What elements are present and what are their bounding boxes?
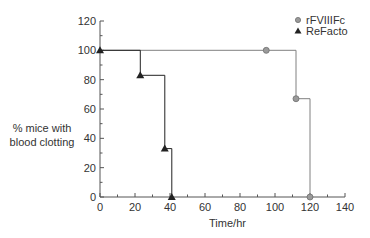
step-line (100, 50, 172, 197)
circle-marker-icon (293, 96, 299, 102)
y-tick-label: 120 (78, 15, 96, 27)
x-tick-label: 140 (336, 201, 354, 213)
y-tick-label: 60 (84, 103, 96, 115)
y-axis-title-line-1: % mice with (2, 121, 82, 135)
legend-item: ReFacto (295, 25, 348, 37)
triangle-marker-icon (295, 28, 302, 34)
circle-marker-icon (263, 47, 269, 53)
circle-marker-icon (295, 17, 300, 22)
x-axis-title: Time/hr (209, 217, 246, 229)
y-axis-title-line-2: blood clotting (2, 135, 82, 149)
y-tick-label: 80 (84, 74, 96, 86)
y-tick-label: 0 (90, 191, 96, 203)
step-line (100, 50, 310, 197)
y-tick-label: 20 (84, 162, 96, 174)
legend: rFVIIIFcReFacto (295, 14, 348, 37)
series-rfviiifc (100, 47, 313, 200)
triangle-marker-icon (136, 71, 144, 78)
x-tick-label: 80 (234, 201, 246, 213)
x-tick-label: 60 (199, 201, 211, 213)
circle-marker-icon (307, 194, 313, 200)
x-tick-label: 20 (129, 201, 141, 213)
x-tick-label: 120 (301, 201, 319, 213)
x-tick-label: 0 (97, 201, 103, 213)
x-tick-label: 100 (266, 201, 284, 213)
series-refacto (96, 46, 176, 200)
y-tick-label: 40 (84, 132, 96, 144)
survival-chart: 020406080100120020406080100120140Time/hr… (0, 0, 370, 238)
legend-label: ReFacto (306, 25, 348, 37)
y-tick-label: 100 (78, 44, 96, 56)
x-tick-label: 40 (164, 201, 176, 213)
y-axis-title: % mice with blood clotting (2, 121, 82, 149)
series-layer (96, 46, 313, 200)
